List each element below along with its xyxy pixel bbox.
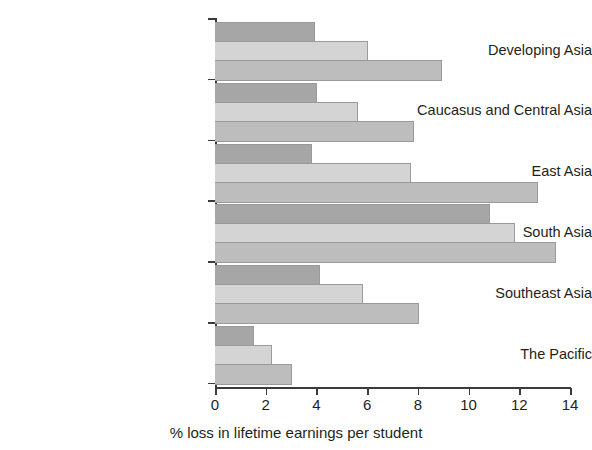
- x-axis-tick: [367, 388, 369, 395]
- y-axis-tick: [208, 140, 215, 142]
- bar: [215, 265, 320, 286]
- x-axis-tick: [266, 388, 268, 395]
- y-axis-tick: [208, 261, 215, 263]
- plot-area: [215, 18, 570, 388]
- x-axis-tick: [215, 388, 217, 395]
- bar: [215, 22, 315, 43]
- bar: [215, 41, 368, 62]
- bar: [215, 242, 556, 263]
- y-axis-tick: [208, 200, 215, 202]
- x-axis-tick-label: 0: [195, 396, 235, 413]
- x-axis-tick: [418, 388, 420, 395]
- x-axis-tick-label: 4: [296, 396, 336, 413]
- bar: [215, 223, 515, 244]
- x-axis-tick: [316, 388, 318, 395]
- bar: [215, 102, 358, 123]
- bar: [215, 303, 419, 324]
- bar: [215, 284, 363, 305]
- y-axis-tick: [208, 79, 215, 81]
- y-axis-tick: [208, 322, 215, 324]
- x-axis-title: % loss in lifetime earnings per student: [0, 424, 592, 441]
- x-axis-tick-label: 14: [550, 396, 590, 413]
- x-axis-tick: [469, 388, 471, 395]
- x-axis-tick-label: 10: [449, 396, 489, 413]
- bar: [215, 163, 411, 184]
- bar: [215, 121, 414, 142]
- x-axis-tick-label: 8: [398, 396, 438, 413]
- bar: [215, 83, 317, 104]
- bar: [215, 204, 490, 225]
- y-axis-tick: [208, 18, 215, 20]
- bar-chart: Developing AsiaCaucasus and Central Asia…: [0, 0, 592, 450]
- bar: [215, 182, 538, 203]
- x-axis-tick-label: 6: [347, 396, 387, 413]
- y-axis-tick: [208, 383, 215, 385]
- bar: [215, 345, 272, 366]
- x-axis-tick: [570, 388, 572, 395]
- bar: [215, 326, 254, 347]
- bar: [215, 364, 292, 385]
- x-axis-tick-label: 2: [246, 396, 286, 413]
- bar: [215, 60, 442, 81]
- x-axis-tick: [519, 388, 521, 395]
- x-axis-tick-label: 12: [499, 396, 539, 413]
- bar: [215, 144, 312, 165]
